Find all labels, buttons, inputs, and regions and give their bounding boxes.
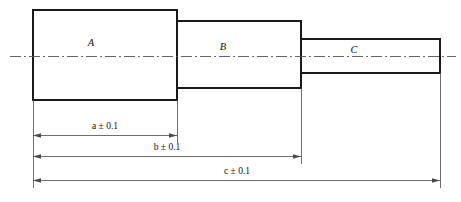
technical-drawing: A B C a ± 0.1 b ± 0.1 — [0, 0, 461, 202]
dimension-label-c: c ± 0.1 — [224, 166, 250, 176]
dimension-label-b: b ± 0.1 — [154, 142, 181, 152]
arrowhead-b-left — [33, 154, 41, 159]
part-outline-a — [33, 10, 177, 100]
part-label-b: B — [220, 41, 227, 52]
dimension-b: b ± 0.1 — [33, 142, 301, 159]
part-label-a: A — [87, 37, 95, 48]
dimension-label-a: a ± 0.1 — [92, 121, 118, 131]
dimension-c: c ± 0.1 — [33, 166, 440, 183]
arrowhead-a-right — [169, 133, 177, 138]
dimension-a: a ± 0.1 — [33, 121, 177, 138]
part-outline-b — [177, 21, 301, 88]
part-labels: A B C — [87, 37, 359, 55]
arrowhead-b-right — [293, 154, 301, 159]
part-outline-c — [301, 39, 440, 73]
part-outlines — [33, 10, 440, 100]
arrowhead-c-left — [33, 178, 41, 183]
arrowhead-a-left — [33, 133, 41, 138]
drawing-canvas: A B C a ± 0.1 b ± 0.1 — [0, 0, 461, 202]
arrowhead-c-right — [432, 178, 440, 183]
part-label-c: C — [350, 44, 358, 55]
